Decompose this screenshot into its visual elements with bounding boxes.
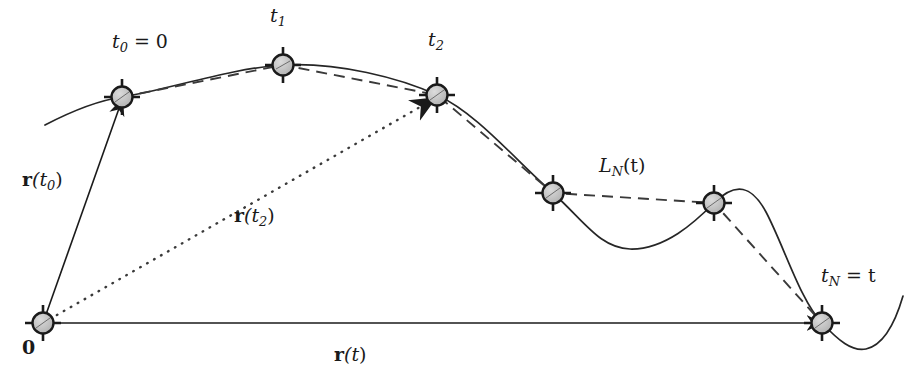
curve-r-of-t: [45, 65, 903, 350]
label-t1-sub: 1: [278, 14, 286, 29]
trajectory-figure: [0, 0, 908, 378]
label-r-t0: r(t0): [22, 170, 63, 193]
label-t0-sub: 0: [120, 40, 128, 55]
label-r-t0-close: ): [55, 168, 62, 190]
label-r-t-base: r: [334, 343, 344, 365]
label-r-t2: r(t2): [234, 206, 275, 229]
label-t2-sub: 2: [436, 38, 444, 53]
label-t0-base: t: [112, 30, 120, 52]
label-L-N-of-t: LN(t): [599, 156, 645, 179]
label-LN-sub: N: [612, 164, 623, 179]
label-LN-base: L: [599, 154, 612, 176]
label-t2: t2: [428, 30, 444, 53]
label-tN: tN = t: [821, 266, 876, 289]
label-r-t0-open: (t: [32, 168, 47, 190]
node-marker-t2[interactable]: [419, 77, 455, 113]
label-tN-eq: = t: [840, 264, 876, 286]
label-tN-base: t: [821, 264, 829, 286]
figure-canvas: t0 = 0 t1 t2 tN = t LN(t) r(t0) r(t2) r(…: [0, 0, 908, 378]
label-t0-eq: = 0: [128, 30, 168, 52]
label-tN-sub: N: [829, 274, 840, 289]
node-marker-t1[interactable]: [265, 47, 301, 83]
label-r-t2-close: ): [267, 204, 274, 226]
label-r-t2-open: (t: [244, 204, 259, 226]
label-t2-base: t: [428, 28, 436, 50]
vector-r-t0: [43, 100, 122, 323]
label-t1: t1: [270, 6, 286, 29]
label-t0: t0 = 0: [112, 32, 168, 55]
label-r-t-open: (t: [344, 343, 359, 365]
label-r-t0-base: r: [22, 168, 32, 190]
label-t1-base: t: [270, 4, 278, 26]
label-r-t: r(t): [334, 345, 367, 364]
label-LN-arg: (t): [623, 154, 645, 176]
label-origin-zero: 0: [22, 338, 35, 357]
node-marker-t0[interactable]: [104, 79, 140, 115]
label-r-t-close: ): [359, 343, 366, 365]
label-r-t2-base: r: [234, 204, 244, 226]
